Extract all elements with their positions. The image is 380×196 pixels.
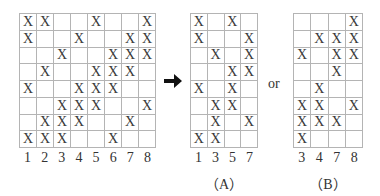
grid-cell: X <box>37 64 54 81</box>
grid-cell: X <box>191 14 208 31</box>
grid-cell: X <box>88 97 105 114</box>
grid-cell <box>71 131 88 148</box>
main-column-labels: 12345678 <box>19 150 156 166</box>
grid-cell <box>328 81 345 98</box>
right-arrow-icon <box>163 73 183 89</box>
grid-cell: X <box>105 47 122 64</box>
grid-cell: X <box>71 114 88 131</box>
grid-cell: X <box>311 114 328 131</box>
grid-cell: X <box>71 81 88 98</box>
grid-cell <box>20 47 37 64</box>
grid-row: X <box>294 64 363 81</box>
grid-cell: X <box>105 64 122 81</box>
grid-row: X <box>294 131 363 148</box>
grid-cell: X <box>54 47 71 64</box>
grid-cell: X <box>20 14 37 31</box>
column-label: 4 <box>70 150 87 166</box>
grid-cell <box>224 114 241 131</box>
grid-cell <box>37 30 54 47</box>
option-b-caption: （B） <box>293 173 363 193</box>
grid-cell: X <box>139 97 156 114</box>
grid-cell <box>54 14 71 31</box>
grid-cell: X <box>122 30 139 47</box>
grid-row: XXXX <box>20 47 156 64</box>
grid-row: XXX <box>294 114 363 131</box>
grid-cell <box>224 131 241 148</box>
grid-cell: X <box>294 114 311 131</box>
grid-cell: X <box>191 30 208 47</box>
grid-cell: X <box>241 64 258 81</box>
grid-cell <box>241 14 258 31</box>
grid-row: XXXX <box>20 14 156 31</box>
grid-cell <box>241 131 258 148</box>
grid-cell <box>294 14 311 31</box>
grid-cell <box>345 114 362 131</box>
column-label: 8 <box>139 150 156 166</box>
grid-cell <box>54 81 71 98</box>
grid-cell: X <box>207 47 224 64</box>
option-b-column-labels: 3478 <box>293 150 363 166</box>
grid-cell: X <box>207 114 224 131</box>
grid-cell <box>122 81 139 98</box>
grid-cell <box>191 97 208 114</box>
grid-cell: X <box>311 97 328 114</box>
grid-cell <box>105 14 122 31</box>
grid-cell <box>122 131 139 148</box>
grid-cell <box>20 97 37 114</box>
grid-cell: X <box>122 64 139 81</box>
grid-cell <box>191 114 208 131</box>
grid-cell <box>71 14 88 31</box>
grid-row: XX <box>191 114 258 131</box>
grid-cell: X <box>71 97 88 114</box>
grid-cell <box>88 114 105 131</box>
column-label: 7 <box>328 150 346 166</box>
grid-cell: X <box>122 47 139 64</box>
grid-cell <box>105 97 122 114</box>
grid-cell: X <box>20 131 37 148</box>
grid-cell <box>328 97 345 114</box>
grid-cell: X <box>311 30 328 47</box>
grid-row: XX <box>191 131 258 148</box>
grid-cell: X <box>224 97 241 114</box>
column-label: 7 <box>241 150 258 166</box>
grid-cell <box>224 30 241 47</box>
option-b-grid: XXXXXXXXXXXXXXXX <box>293 13 363 148</box>
grid-row: XX <box>191 81 258 98</box>
column-label: 4 <box>311 150 329 166</box>
grid-cell <box>191 64 208 81</box>
grid-row: XXXX <box>20 81 156 98</box>
grid-cell <box>105 114 122 131</box>
grid-row: XXXX <box>20 131 156 148</box>
column-label: 3 <box>207 150 224 166</box>
grid-cell: X <box>139 47 156 64</box>
grid-cell <box>20 114 37 131</box>
grid-row: XX <box>191 30 258 47</box>
grid-cell: X <box>37 131 54 148</box>
column-label: 3 <box>53 150 70 166</box>
column-label: 5 <box>88 150 105 166</box>
or-connector: or <box>268 76 280 92</box>
column-label: 6 <box>105 150 122 166</box>
grid-cell: X <box>241 30 258 47</box>
grid-cell <box>139 114 156 131</box>
grid-cell: X <box>191 131 208 148</box>
grid-cell <box>311 64 328 81</box>
grid-cell: X <box>345 14 362 31</box>
grid-cell <box>37 97 54 114</box>
grid-cell <box>345 64 362 81</box>
grid-cell <box>122 14 139 31</box>
grid-row: XXXX <box>20 97 156 114</box>
grid-row: XX <box>191 64 258 81</box>
grid-cell <box>224 47 241 64</box>
grid-cell: X <box>37 14 54 31</box>
grid-cell: X <box>122 114 139 131</box>
grid-row: XX <box>191 97 258 114</box>
grid-cell: X <box>139 30 156 47</box>
grid-cell: X <box>54 97 71 114</box>
grid-cell <box>345 81 362 98</box>
grid-cell <box>37 47 54 64</box>
grid-cell <box>207 64 224 81</box>
option-a-caption: （A） <box>190 173 258 193</box>
grid-cell <box>241 97 258 114</box>
main-grid: XXXXXXXXXXXXXXXXXXXXXXXXXXXXXXXX <box>19 13 156 148</box>
